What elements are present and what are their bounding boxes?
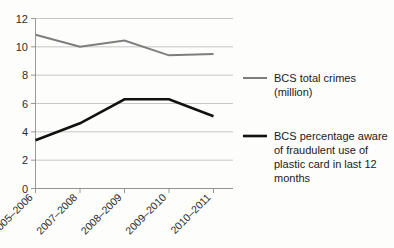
x-axis-ticks-group <box>36 189 214 194</box>
legend-label-line: BCS total crimes <box>274 72 356 84</box>
x-axis-labels-group: 2005–20062007–20082008–20092009–20102010… <box>0 191 213 237</box>
y-axis-tick-label: 2 <box>22 154 28 166</box>
legend-label-line: BCS percentage aware <box>274 130 388 142</box>
y-axis-tick-label: 10 <box>16 41 28 53</box>
series-group <box>36 35 214 141</box>
y-axis-tick-label: 12 <box>16 13 28 25</box>
legend-label-line: of fraudulent use of <box>274 144 369 156</box>
legend-label-line: (million) <box>274 86 313 98</box>
line-chart: 024681012 2005–20062007–20082008–2009200… <box>0 0 394 248</box>
series-line-black <box>36 99 214 140</box>
legend-label-line: months <box>274 172 311 184</box>
y-axis-labels-group: 024681012 <box>16 13 28 195</box>
legend: BCS total crimes(million)BCS percentage … <box>243 72 388 184</box>
x-axis-tick-label: 2009–2010 <box>123 191 169 237</box>
x-axis-tick-label: 2005–2006 <box>0 191 35 237</box>
x-axis-tick-label: 2007–2008 <box>34 191 80 237</box>
y-axis-tick-label: 4 <box>22 126 28 138</box>
chart-figure: 024681012 2005–20062007–20082008–2009200… <box>0 0 394 248</box>
legend-label-line: plastic card in last 12 <box>274 158 377 170</box>
series-line-gray <box>36 35 214 56</box>
y-axis-ticks-group <box>31 19 36 189</box>
x-axis-tick-label: 2008–2009 <box>78 191 124 237</box>
y-axis-tick-label: 8 <box>22 69 28 81</box>
x-axis-tick-label: 2010–2011 <box>168 191 213 236</box>
y-axis-tick-label: 6 <box>22 98 28 110</box>
